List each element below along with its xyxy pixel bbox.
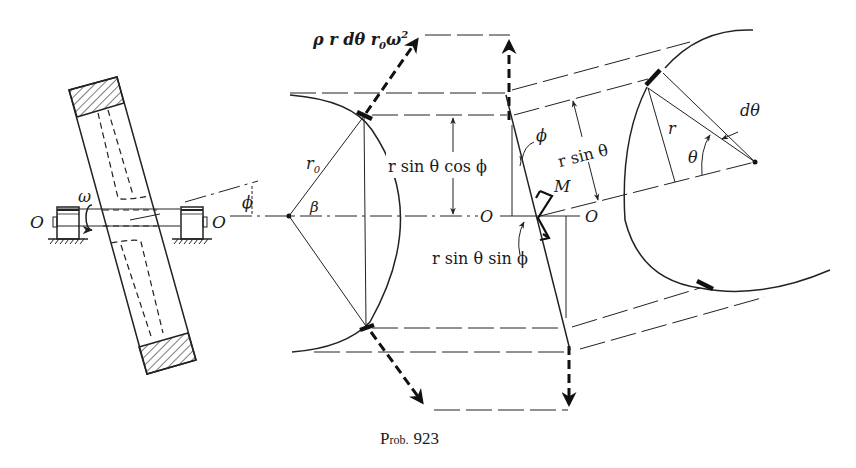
r-sin-theta-sin-phi-label: r sin θ sin ϕ (432, 249, 528, 268)
side-view: r0 β ρ r dθ r0ω2 r sin θ cos ϕ O O ϕ M (287, 29, 599, 410)
figure-caption: Prob.923 (380, 429, 439, 448)
omega-label: ω (78, 187, 91, 206)
flywheel-assembly: ω O O ϕ (30, 77, 258, 374)
mass-element-right-upper (646, 70, 660, 85)
force-vector-lower (371, 332, 422, 402)
radius-r-1 (648, 88, 755, 162)
bearing-O-right: O (212, 212, 226, 232)
r0-label: r0 (306, 154, 321, 175)
flywheel-gyroscopic-diagram: ω O O ϕ r0 β ρ r dθ r0ω2 (0, 0, 856, 468)
rim-bottom-hatched (139, 333, 196, 374)
force-vector-upper (366, 40, 417, 113)
rim-arc-right (624, 30, 830, 292)
bearing-O-left: O (30, 212, 44, 232)
oblique-line-5 (580, 297, 765, 349)
phi-left-label: ϕ (242, 193, 253, 212)
shaft (58, 209, 180, 226)
radius-r0-upper (289, 116, 364, 216)
phi-center-label: ϕ (536, 126, 547, 145)
rim-arc-center (290, 95, 401, 352)
hidden-web-lines (98, 110, 163, 336)
force-label: ρ r dθ r0ω2 (312, 29, 408, 51)
beta-label: β (309, 198, 319, 216)
r-label: r (668, 119, 677, 138)
rim-top-hatched (69, 77, 124, 117)
oblique-line-1 (512, 42, 690, 90)
mass-element-lower (360, 325, 374, 330)
center-O-right: O (585, 207, 598, 226)
chord-vertical (364, 116, 366, 326)
center-O-left: O (480, 207, 493, 226)
oblique-line-3 (540, 162, 755, 216)
theta-arc (702, 135, 710, 175)
phi-center-leader (522, 142, 534, 160)
r-sin-theta-cos-phi-label: r sin θ cos ϕ (388, 157, 487, 176)
radius-r0-lower (289, 216, 366, 326)
dtheta-label: dθ (740, 101, 760, 120)
phi-center-arc (520, 156, 521, 166)
theta-label: θ (688, 148, 698, 167)
M-label: M (553, 177, 571, 196)
